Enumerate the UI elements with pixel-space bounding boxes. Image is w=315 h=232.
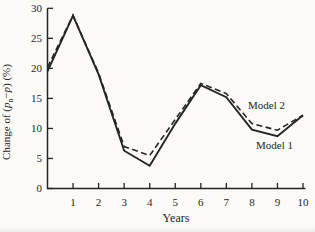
y-tick-label: 10 <box>31 122 43 134</box>
x-tick-label: 3 <box>121 196 127 208</box>
x-tick-label: 4 <box>147 196 153 208</box>
model-1-label: Model 1 <box>256 139 293 151</box>
y-axis-title: Change of (pn−p) (%) <box>0 64 15 160</box>
y-tick-label: 20 <box>31 62 43 74</box>
x-tick-label: 6 <box>198 196 204 208</box>
y-tick-label: 5 <box>37 152 43 164</box>
y-axis-title-part: ) (%) <box>0 64 13 87</box>
x-axis-title: Years <box>163 211 190 225</box>
x-tick-label: 9 <box>275 196 281 208</box>
y-tick-label: 30 <box>31 2 43 14</box>
y-tick-label: 0 <box>37 182 43 194</box>
y-tick-label: 25 <box>31 32 43 44</box>
model-2-line <box>48 16 304 156</box>
figure: 05101520253012345678910 Model 2Model 1 Y… <box>0 0 315 232</box>
x-tick-label: 10 <box>298 196 310 208</box>
y-tick-label: 15 <box>31 92 43 104</box>
x-tick-label: 2 <box>96 196 102 208</box>
y-axis-title-part: Change of ( <box>0 108 13 160</box>
x-tick-label: 8 <box>249 196 255 208</box>
model-2-label: Model 2 <box>248 99 285 111</box>
x-tick-label: 5 <box>173 196 179 208</box>
x-tick-label: 1 <box>70 196 76 208</box>
line-chart: 05101520253012345678910 Model 2Model 1 Y… <box>0 0 315 232</box>
x-tick-label: 7 <box>224 196 230 208</box>
